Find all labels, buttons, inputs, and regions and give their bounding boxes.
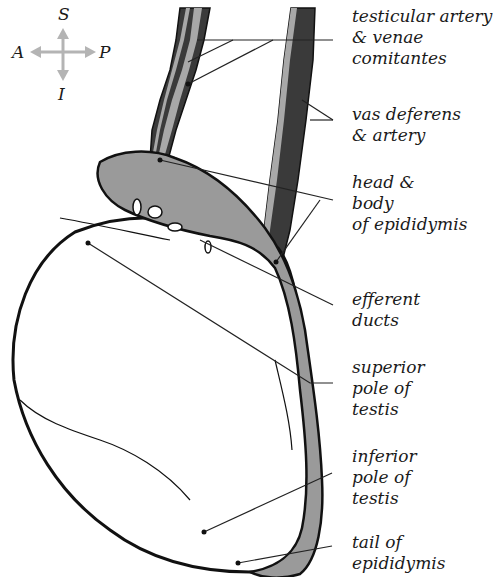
label-line: vas deferens <box>352 104 461 125</box>
label-vas-deferens: vas deferens & artery <box>352 104 461 146</box>
label-line: head & <box>352 172 467 193</box>
compass-superior: S <box>58 4 70 24</box>
label-line: efferent <box>352 289 420 310</box>
label-line: of epididymis <box>352 214 467 235</box>
label-line: body <box>352 193 467 214</box>
testicular-vessels <box>150 8 210 160</box>
compass-posterior: P <box>99 42 110 62</box>
label-line: & artery <box>352 125 461 146</box>
label-line: comitantes <box>352 48 492 69</box>
label-line: & venae <box>352 27 492 48</box>
label-line: ducts <box>352 310 420 331</box>
label-line: pole of <box>352 378 425 399</box>
compass-anterior: A <box>12 42 24 62</box>
label-line: superior <box>352 357 425 378</box>
testis-body <box>13 218 312 572</box>
label-line: epididymis <box>352 553 445 574</box>
label-line: pole of <box>352 467 417 488</box>
label-line: testis <box>352 399 425 420</box>
compass-inferior: I <box>58 84 65 104</box>
label-superior-pole: superior pole of testis <box>352 357 425 420</box>
label-line: tail of <box>352 532 445 553</box>
label-line: testis <box>352 488 417 509</box>
orientation-compass-arrows <box>30 28 96 81</box>
vas-deferens-vessel <box>262 8 315 262</box>
label-inferior-pole: inferior pole of testis <box>352 446 417 509</box>
label-head-body-epididymis: head & body of epididymis <box>352 172 467 235</box>
label-line: testicular artery <box>352 6 492 27</box>
label-tail-epididymis: tail of epididymis <box>352 532 445 574</box>
label-testicular-artery: testicular artery & venae comitantes <box>352 6 492 69</box>
label-line: inferior <box>352 446 417 467</box>
anatomy-figure: S I A P testicular artery & venae comita… <box>0 0 493 577</box>
label-efferent-ducts: efferent ducts <box>352 289 420 331</box>
